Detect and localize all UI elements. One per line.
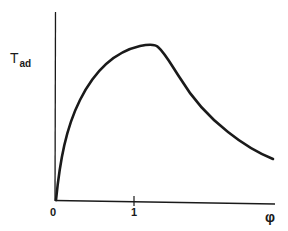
chart: Tad 0 1 φ bbox=[0, 0, 288, 231]
y-axis-label-subscript: ad bbox=[20, 58, 32, 69]
tad-curve bbox=[56, 45, 273, 200]
x-tick-label-1: 1 bbox=[131, 207, 137, 218]
plot-area bbox=[0, 0, 288, 231]
x-tick-label-0: 0 bbox=[50, 207, 56, 218]
y-axis bbox=[55, 12, 56, 201]
y-axis-label: Tad bbox=[10, 51, 31, 67]
x-axis bbox=[55, 201, 275, 205]
y-axis-label-main: T bbox=[10, 50, 19, 66]
x-axis-label: φ bbox=[265, 210, 275, 224]
